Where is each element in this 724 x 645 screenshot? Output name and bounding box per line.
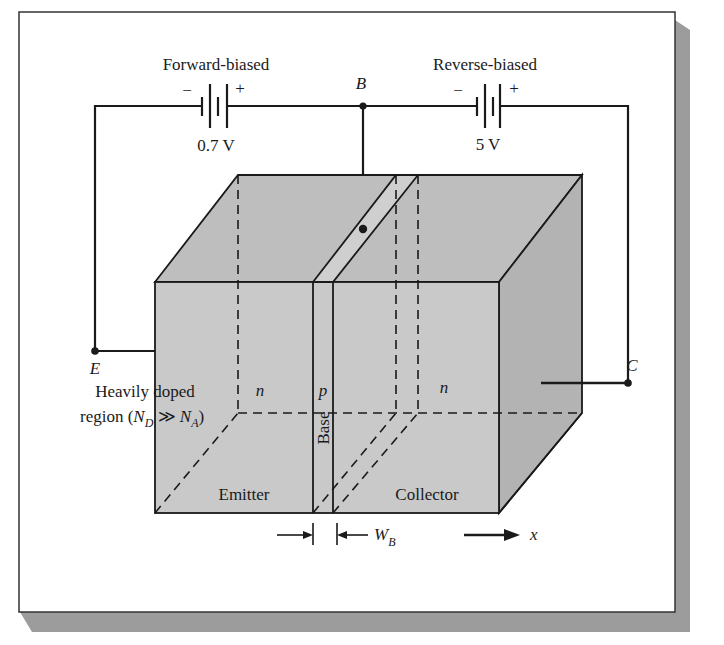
figure-frame: Forward-biased − + 0.7 V Reverse-biased … bbox=[0, 0, 724, 645]
collector-node bbox=[624, 379, 632, 387]
emitter-node bbox=[91, 347, 99, 355]
base-terminal-label: B bbox=[356, 74, 367, 93]
reverse-voltage-label: 5 V bbox=[476, 135, 501, 154]
forward-minus-sign: − bbox=[182, 81, 192, 100]
emitter-region-label: Emitter bbox=[219, 485, 270, 504]
base-node-top bbox=[359, 102, 366, 109]
reverse-biased-label: Reverse-biased bbox=[433, 55, 537, 74]
collector-region-label: Collector bbox=[395, 485, 459, 504]
base-type-label: p bbox=[318, 381, 328, 400]
reverse-minus-sign: − bbox=[453, 81, 463, 100]
base-contact-dot bbox=[359, 225, 367, 233]
reverse-plus-sign: + bbox=[509, 79, 519, 98]
collector-type-label: n bbox=[440, 378, 449, 397]
forward-plus-sign: + bbox=[235, 79, 245, 98]
forward-biased-label: Forward-biased bbox=[163, 55, 270, 74]
base-region-label: Base bbox=[314, 411, 333, 444]
emitter-type-label: n bbox=[256, 381, 265, 400]
heavy-doping-label-line1: Heavily doped bbox=[95, 382, 195, 401]
forward-voltage-label: 0.7 V bbox=[197, 136, 235, 155]
x-axis-label: x bbox=[529, 525, 538, 544]
collector-terminal-label: C bbox=[626, 356, 638, 375]
